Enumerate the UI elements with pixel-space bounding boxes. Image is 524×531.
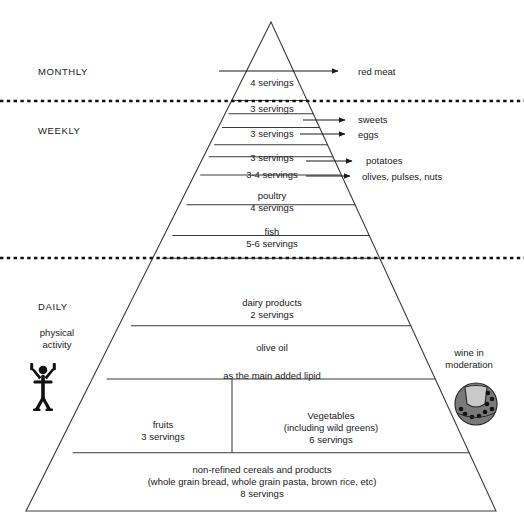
callout-label-potatoes: potatoes xyxy=(366,155,402,167)
wine-moderation-label-line2: moderation xyxy=(445,359,493,371)
level-label-cereals-detail: (whole grain bread, whole grain pasta, b… xyxy=(148,476,377,488)
callout-label-olives-pulses-nuts: olives, pulses, nuts xyxy=(362,171,442,183)
level-label-eggs-servings: 3 servings xyxy=(250,128,293,140)
level-label-dairy-servings: 2 servings xyxy=(250,309,293,321)
wine-moderation-label-line1: wine in xyxy=(454,347,484,359)
zone-label-daily: DAILY xyxy=(38,301,68,313)
level-label-olive-oil: olive oil xyxy=(256,342,288,354)
level-label-sweets-servings: 3 servings xyxy=(250,103,293,115)
zone-label-weekly: WEEKLY xyxy=(38,125,81,137)
physical-activity-label-line2: activity xyxy=(42,339,71,351)
level-label-cereals-servings: 8 servings xyxy=(240,488,283,500)
callout-label-sweets: sweets xyxy=(358,114,388,126)
grapes-wine-emblem-icon xyxy=(455,383,497,425)
level-label-poultry-name: poultry xyxy=(258,190,287,202)
physical-activity-label-line1: physical xyxy=(40,327,74,339)
level-label-fruits-servings: 3 servings xyxy=(141,431,184,443)
level-label-dairy-name: dairy products xyxy=(242,297,302,309)
level-label-red-meat-servings: 4 servings xyxy=(250,77,293,89)
zone-label-monthly: MONTHLY xyxy=(38,66,88,78)
level-label-fish-name: fish xyxy=(265,226,280,238)
level-label-potatoes-servings: 3 servings xyxy=(250,152,293,164)
callout-label-eggs: eggs xyxy=(358,129,379,141)
level-label-vegetables-name: Vegetables xyxy=(307,410,354,422)
level-label-fish-servings: 5-6 servings xyxy=(246,238,298,250)
level-label-olive-oil-lipid: as the main added lipid xyxy=(223,370,321,382)
level-label-poultry-servings: 4 servings xyxy=(250,202,293,214)
pyramid-outline xyxy=(26,22,496,511)
level-label-olives-servings: 3-4 servings xyxy=(246,169,298,181)
level-label-vegetables-servings: 6 servings xyxy=(309,434,352,446)
exercising-person-icon xyxy=(30,363,56,411)
callout-label-red-meat: red meat xyxy=(358,66,396,78)
food-pyramid-diagram: MONTHLY WEEKLY DAILY physical activity w… xyxy=(0,0,524,531)
level-label-cereals-name: non-refined cereals and products xyxy=(193,464,332,476)
level-label-fruits-name: fruits xyxy=(153,419,174,431)
level-label-vegetables-detail: (including wild greens) xyxy=(284,422,379,434)
